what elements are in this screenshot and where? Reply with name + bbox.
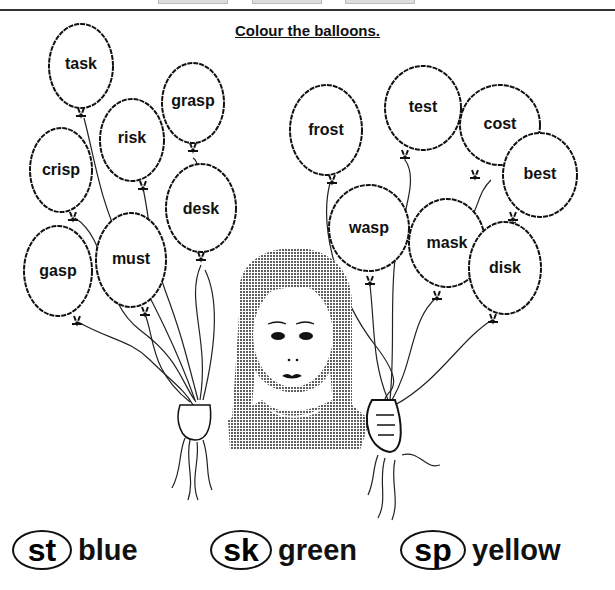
balloon-label-test: test: [409, 98, 437, 116]
balloon-label-grasp: grasp: [171, 92, 215, 110]
balloon-label-frost: frost: [308, 121, 344, 139]
color-key-sp: sp yellow: [400, 528, 561, 572]
balloon-label-must: must: [112, 250, 150, 268]
balloon-label-cost: cost: [484, 115, 517, 133]
balloon-label-wasp: wasp: [349, 219, 389, 237]
balloon-label-crisp: crisp: [42, 161, 80, 179]
balloon-label-disk: disk: [489, 259, 521, 277]
balloon-label-best: best: [524, 165, 557, 183]
balloon-label-task: task: [65, 55, 97, 73]
color-key-sk: sk green: [210, 528, 357, 572]
color-name: green: [278, 534, 357, 567]
color-name: blue: [78, 534, 138, 567]
balloon-label-risk: risk: [118, 129, 146, 147]
left-hand: [178, 405, 211, 440]
balloon-label-gasp: gasp: [39, 262, 76, 280]
balloon-label-desk: desk: [183, 200, 219, 218]
balloon-label-mask: mask: [427, 234, 468, 252]
color-name: yellow: [472, 534, 561, 567]
blend-oval: sk: [210, 530, 272, 570]
blend-oval: sp: [400, 530, 466, 570]
right-hand: [367, 400, 401, 452]
color-key-st: st blue: [12, 528, 138, 572]
blend-oval: st: [12, 530, 72, 570]
illustration: [0, 0, 615, 590]
